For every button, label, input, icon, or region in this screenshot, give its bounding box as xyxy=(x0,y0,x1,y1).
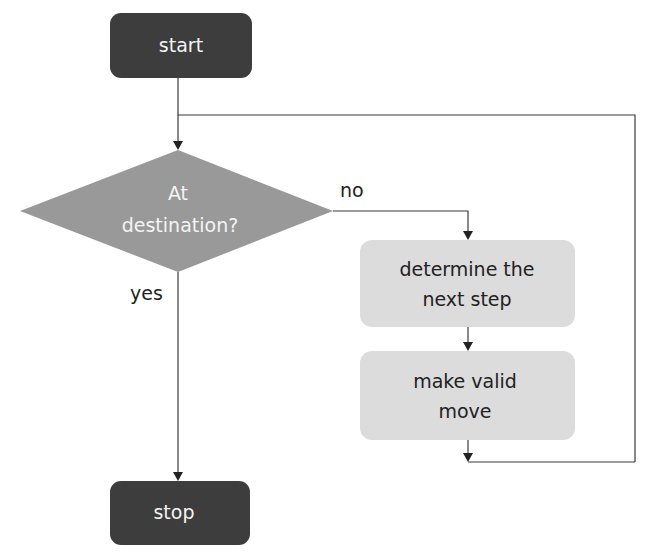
make-valid-move-node: make valid move xyxy=(360,351,575,440)
step2-label-line1: make valid xyxy=(413,370,517,392)
flowchart-canvas: start At destination? no yes determine t… xyxy=(0,0,647,560)
stop-label: stop xyxy=(153,501,194,523)
stop-node: stop xyxy=(110,481,250,545)
step2-label-line2: move xyxy=(438,400,491,422)
step1-label-line1: determine the xyxy=(399,258,534,280)
decision-node: At destination? xyxy=(20,150,333,272)
yes-label: yes xyxy=(130,282,163,304)
step1-label-line2: next step xyxy=(422,288,511,310)
start-node: start xyxy=(110,13,252,78)
determine-next-step-node: determine the next step xyxy=(360,240,575,327)
start-label: start xyxy=(159,34,203,56)
arrowhead-icon xyxy=(173,472,183,481)
decision-label-line1: At xyxy=(168,182,188,204)
edge-decision-to-step1 xyxy=(333,211,468,233)
no-label: no xyxy=(340,179,364,201)
arrowhead-icon xyxy=(463,342,473,351)
arrowhead-icon xyxy=(173,141,183,150)
arrowhead-icon xyxy=(463,231,473,240)
arrowhead-icon xyxy=(463,453,473,462)
decision-label-line2: destination? xyxy=(122,214,239,236)
